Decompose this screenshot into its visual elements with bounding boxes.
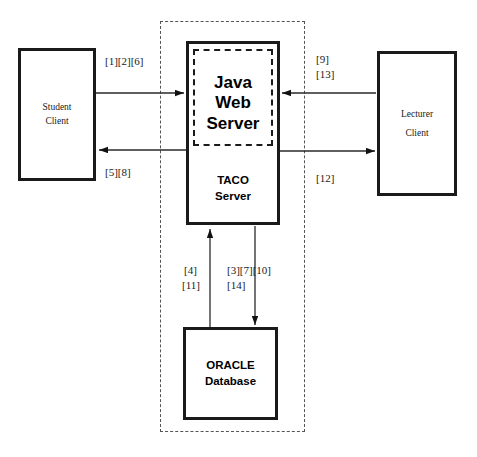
student-client-box[interactable]: StudentClient: [18, 48, 96, 181]
flow-label-lecturer-to-server-2: [13]: [316, 68, 334, 82]
java-web-server-line3: Server: [207, 114, 260, 133]
student-client-line1: Student: [42, 102, 71, 112]
taco-server-line1: TACO: [217, 174, 249, 186]
student-client-label: StudentClient: [42, 101, 71, 129]
taco-server-line2: Server: [215, 190, 251, 202]
flow-label-student-to-server: [1][2][6]: [105, 55, 143, 69]
lecturer-client-line1: Lecturer: [401, 109, 433, 119]
diagram-canvas: StudentClient LecturerClient JavaWebServ…: [0, 0, 477, 457]
oracle-database-label: ORACLEDatabase: [205, 358, 256, 389]
flow-label-server-to-db-2: [14]: [227, 279, 245, 293]
student-client-line2: Client: [45, 116, 68, 126]
flow-label-db-to-server-2: [11]: [182, 279, 200, 293]
flow-label-lecturer-to-server-1: [9]: [316, 53, 329, 67]
lecturer-client-line2: Client: [405, 128, 428, 138]
flow-label-server-to-db-1: [3][7][10]: [227, 264, 271, 278]
taco-server-label: TACOServer: [186, 173, 280, 204]
flow-label-server-to-student: [5][8]: [105, 166, 131, 180]
oracle-database-line2: Database: [205, 375, 256, 387]
java-web-server-box[interactable]: JavaWebServer: [193, 49, 273, 146]
flow-label-server-to-lecturer: [12]: [316, 172, 334, 186]
java-web-server-label: JavaWebServer: [207, 73, 260, 133]
lecturer-client-box[interactable]: LecturerClient: [377, 51, 457, 196]
lecturer-client-label: LecturerClient: [401, 105, 433, 143]
java-web-server-line1: Java: [214, 73, 252, 92]
oracle-database-box[interactable]: ORACLEDatabase: [183, 327, 278, 420]
flow-label-db-to-server-1: [4]: [184, 264, 197, 278]
java-web-server-line2: Web: [215, 93, 251, 112]
oracle-database-line1: ORACLE: [206, 359, 255, 371]
